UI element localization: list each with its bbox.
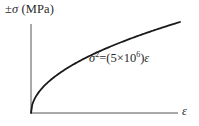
stress-strain-chart: ±σ (MPa) ε σ2=(5×106)ε bbox=[0, 0, 199, 126]
epsilon-symbol: ε bbox=[144, 51, 149, 65]
plus-minus-sign: ± bbox=[5, 2, 12, 16]
equation-annotation: σ2=(5×106)ε bbox=[89, 51, 149, 66]
equation-body: =(5×10 bbox=[99, 51, 136, 65]
y-axis-label: ±σ (MPa) bbox=[5, 2, 54, 17]
sqrt-curve bbox=[31, 22, 180, 113]
unit-label: (MPa) bbox=[18, 2, 54, 16]
x-axis-label: ε bbox=[182, 104, 187, 119]
